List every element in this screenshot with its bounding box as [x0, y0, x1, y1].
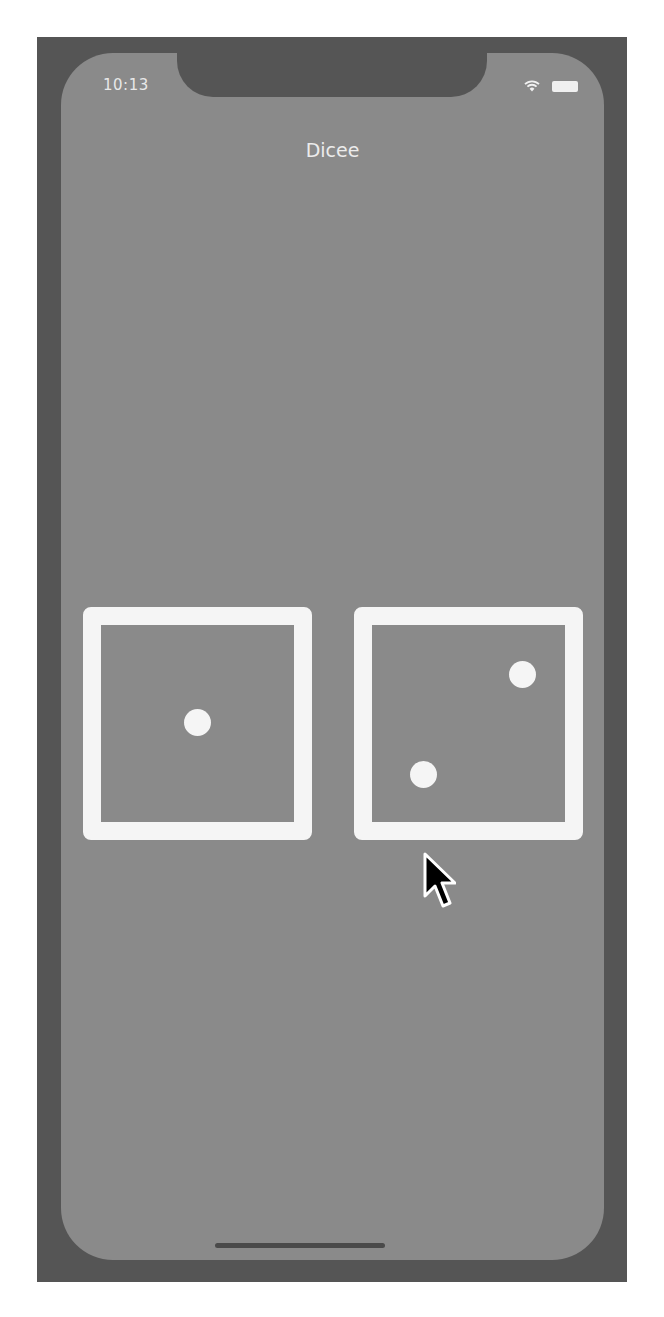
left-die[interactable]	[83, 607, 312, 840]
die-pip	[410, 761, 437, 788]
wifi-icon	[524, 80, 540, 92]
battery-icon	[552, 81, 578, 92]
right-die[interactable]	[354, 607, 583, 840]
die-pip	[184, 709, 211, 736]
mouse-cursor-icon	[422, 852, 456, 910]
status-icons	[524, 80, 578, 92]
notch	[177, 53, 487, 97]
home-indicator[interactable]	[215, 1243, 385, 1248]
status-time: 10:13	[103, 76, 149, 94]
app-title: Dicee	[61, 139, 604, 161]
phone-screen: 10:13 Dicee	[61, 53, 604, 1260]
die-pip	[509, 661, 536, 688]
